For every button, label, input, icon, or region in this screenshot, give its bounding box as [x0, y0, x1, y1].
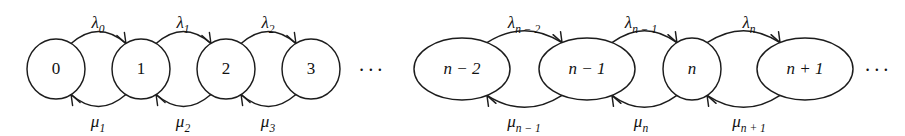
death-transition[interactable]	[156, 95, 211, 107]
birth-death-diagram: 0123n − 2n − 1nn + 1 λ0λ1λ2λn − 2λn − 1λ…	[0, 0, 905, 136]
death-transition[interactable]	[707, 95, 780, 107]
death-rate-label: μn − 1	[506, 112, 541, 134]
arrow-head-icon	[771, 32, 780, 43]
state-transition-canvas: 0123n − 2n − 1nn + 1 λ0λ1λ2λn − 2λn − 1λ…	[0, 0, 905, 136]
continuation-ellipsis: ···	[864, 59, 891, 81]
state-node[interactable]: 0	[27, 39, 85, 99]
state-node-label: 3	[307, 59, 316, 78]
state-node[interactable]: n − 1	[539, 38, 635, 100]
transition-arc	[241, 95, 296, 107]
arrow-head-icon	[707, 95, 716, 106]
state-node[interactable]: n + 1	[757, 38, 853, 100]
state-node-label: 0	[52, 59, 61, 78]
birth-rate-label: λ1	[175, 13, 189, 35]
birth-transition[interactable]	[707, 31, 780, 43]
death-transition[interactable]	[241, 95, 296, 107]
transition-arc	[612, 95, 677, 107]
birth-rate-label: λ2	[260, 13, 274, 35]
death-rate-label: μn	[633, 112, 649, 134]
death-rate-label: μ3	[260, 112, 276, 134]
death-transition[interactable]	[487, 95, 562, 107]
state-node-label: 1	[137, 59, 146, 78]
state-node-label: n − 1	[569, 59, 606, 78]
transition-arc	[487, 95, 562, 107]
state-node-label: n + 1	[787, 59, 824, 78]
death-transition[interactable]	[71, 95, 126, 107]
state-node[interactable]: n − 2	[414, 38, 510, 100]
arrow-head-icon	[487, 95, 496, 106]
transition-arc	[707, 95, 780, 107]
state-node-label: n	[688, 59, 697, 78]
birth-rate-label: λn	[741, 13, 755, 35]
state-node-label: n − 2	[444, 59, 481, 78]
death-transition[interactable]	[612, 95, 677, 107]
birth-rate-label: λn − 1	[624, 13, 657, 35]
state-node[interactable]: 1	[112, 39, 170, 99]
birth-rate-label: λ0	[90, 13, 104, 35]
state-nodes-layer: 0123n − 2n − 1nn + 1	[27, 38, 853, 100]
state-node[interactable]: n	[663, 38, 721, 100]
continuation-ellipsis: ···	[358, 59, 385, 81]
death-rate-label: μ2	[175, 112, 191, 134]
state-node[interactable]: 2	[197, 39, 255, 99]
transition-arc	[707, 31, 780, 43]
transition-arc	[156, 95, 211, 107]
death-rate-label: μn + 1	[731, 112, 766, 134]
arrow-head-icon	[553, 32, 562, 43]
birth-rate-label: λn − 2	[507, 13, 541, 35]
transition-arc	[71, 95, 126, 107]
state-node[interactable]: 3	[282, 39, 340, 99]
death-rate-label: μ1	[90, 112, 105, 134]
state-node-label: 2	[222, 59, 231, 78]
